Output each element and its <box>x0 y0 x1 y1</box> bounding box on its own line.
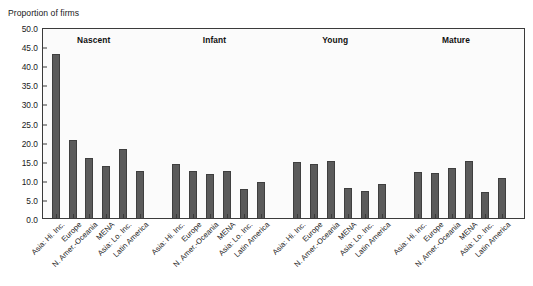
x-tick-mark <box>314 214 315 218</box>
x-tick-mark <box>502 214 503 218</box>
group-title-young: Young <box>322 35 348 45</box>
x-tick-mark <box>89 214 90 218</box>
x-tick-mark <box>56 214 57 218</box>
x-tick-mark <box>140 214 141 218</box>
x-tick-mark <box>261 214 262 218</box>
bar <box>189 171 197 218</box>
bar <box>257 182 265 218</box>
y-tick-label: 20.0 <box>1 139 43 149</box>
y-tick-label: 25.0 <box>1 120 43 130</box>
bar <box>136 171 144 218</box>
x-tick-mark <box>123 214 124 218</box>
group-title-mature: Mature <box>442 35 470 45</box>
x-tick-mark <box>452 214 453 218</box>
bar <box>223 171 231 218</box>
bar <box>102 166 110 218</box>
x-tick-mark <box>435 214 436 218</box>
x-tick-mark <box>227 214 228 218</box>
bar <box>119 149 127 218</box>
y-tick-label: 5.0 <box>1 196 43 206</box>
bars-layer <box>43 29 524 218</box>
x-axis-labels: Asia: Hi. Inc.EuropeN. Amer.-OceaniaMENA… <box>42 220 525 286</box>
x-tick-mark <box>469 214 470 218</box>
bar <box>85 158 93 218</box>
x-tick-mark <box>382 214 383 218</box>
bar <box>378 184 386 218</box>
bar <box>327 161 335 218</box>
bar <box>206 174 214 218</box>
x-tick-mark <box>106 214 107 218</box>
x-tick-mark <box>331 214 332 218</box>
y-tick-label: 30.0 <box>1 100 43 110</box>
y-tick-label: 10.0 <box>1 177 43 187</box>
bar <box>69 140 77 218</box>
x-tick-mark <box>210 214 211 218</box>
bar <box>465 161 473 218</box>
y-tick-label: 45.0 <box>1 43 43 53</box>
x-tick-mark <box>73 214 74 218</box>
plot-area: 50.045.040.035.030.025.020.015.010.05.00… <box>42 28 525 219</box>
x-tick-mark <box>365 214 366 218</box>
x-tick-mark <box>176 214 177 218</box>
y-tick-label: 50.0 <box>1 24 43 34</box>
plot-inner: 50.045.040.035.030.025.020.015.010.05.00… <box>43 29 524 218</box>
bar <box>448 168 456 218</box>
x-tick-mark <box>244 214 245 218</box>
x-tick-mark <box>193 214 194 218</box>
x-tick-mark <box>418 214 419 218</box>
bar <box>414 172 422 218</box>
group-title-nascent: Nascent <box>77 35 110 45</box>
bar <box>498 178 506 218</box>
bar <box>431 173 439 218</box>
bar <box>172 164 180 218</box>
y-tick-label: 15.0 <box>1 158 43 168</box>
bar-chart-figure: Proportion of firms 50.045.040.035.030.0… <box>0 0 533 286</box>
bar <box>52 54 60 218</box>
y-axis-title: Proportion of firms <box>8 8 79 18</box>
bar <box>310 164 318 218</box>
x-tick-mark <box>485 214 486 218</box>
y-tick-label: 35.0 <box>1 81 43 91</box>
x-tick-mark <box>348 214 349 218</box>
y-tick-label: 0.0 <box>1 215 43 225</box>
bar <box>293 162 301 218</box>
y-tick-label: 40.0 <box>1 62 43 72</box>
x-tick-mark <box>297 214 298 218</box>
group-title-infant: Infant <box>203 35 226 45</box>
